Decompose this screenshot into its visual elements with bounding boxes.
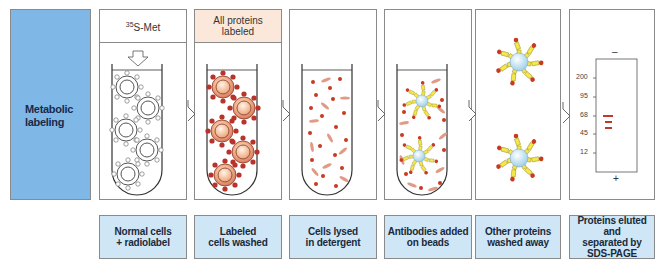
gel-plus-sign: + xyxy=(613,173,619,184)
normal-cells xyxy=(110,71,164,190)
right-arrow-icon xyxy=(283,100,290,121)
right-arrow-icon xyxy=(469,100,476,121)
gel-marker-68: 68 xyxy=(580,111,588,118)
lysate-fragments xyxy=(308,77,350,188)
gel-marker-45: 45 xyxy=(580,129,588,136)
caption-normal-cells: Normal cells + radiolabel xyxy=(99,215,187,259)
test-tubes xyxy=(112,64,447,195)
caption-cells-lysed: Cells lysed in detergent xyxy=(289,215,377,259)
labeled-cells xyxy=(205,70,260,191)
caption-antibodies-added: Antibodies added on beads xyxy=(384,215,472,259)
caption-sds-page: Proteins eluted and separated by SDS-PAG… xyxy=(569,215,655,259)
right-arrow-icon xyxy=(378,100,385,121)
antibody-beads-in-lysate xyxy=(399,78,448,192)
right-arrow-icon xyxy=(563,102,570,123)
gel-marker-95: 95 xyxy=(580,92,588,99)
washed-antibody-beads xyxy=(495,38,544,183)
caption-other-proteins-washed: Other proteins washed away xyxy=(475,215,561,259)
down-arrow-icon xyxy=(128,51,148,66)
sds-page-gel xyxy=(593,59,637,172)
right-arrow-icon xyxy=(188,100,195,121)
gel-marker-200: 200 xyxy=(576,73,588,80)
caption-labeled-cells: Labeled cells washed xyxy=(194,215,282,259)
gel-marker-12: 12 xyxy=(580,148,588,155)
gel-minus-sign: – xyxy=(612,46,618,57)
